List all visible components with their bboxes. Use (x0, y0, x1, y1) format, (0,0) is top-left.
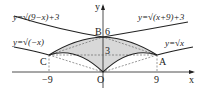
graph-figure: y x O −9 9 3 6 B A C y=√(9−x)+3 y=√(x+9)… (0, 0, 203, 92)
point-b-label: B (95, 26, 102, 37)
equation-upper-right: y=√(x+9)+3 (137, 12, 185, 22)
x-axis-label: x (189, 74, 194, 85)
point-a-label: A (159, 56, 167, 67)
tick-y-mid: 3 (105, 45, 110, 56)
y-axis-arrow-icon (101, 4, 105, 10)
equation-upper-left: y=√(9−x)+3 (12, 12, 60, 22)
curve-upper-right (103, 22, 188, 37)
origin-label: O (97, 74, 104, 85)
tick-y-top: 6 (105, 26, 110, 37)
point-c-label: C (40, 56, 47, 67)
tick-x-neg: −9 (42, 74, 53, 85)
tick-x-pos: 9 (154, 74, 159, 85)
equation-lower-left: y=√(−x) (12, 37, 44, 47)
equation-lower-right: y=√x (164, 38, 184, 48)
y-axis-label: y (95, 1, 100, 12)
